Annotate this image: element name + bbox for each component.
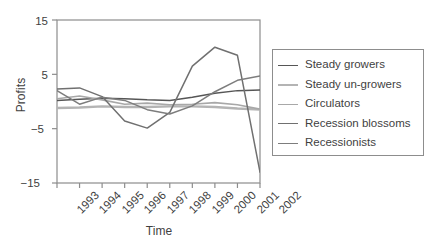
legend-item[interactable]: Steady growers <box>278 55 385 75</box>
legend-swatch-line-icon <box>278 123 298 124</box>
legend-item-label: Steady growers <box>305 59 385 71</box>
series-lines <box>57 47 260 172</box>
ytick-label-neg15: −15 <box>10 177 40 189</box>
series-line <box>57 47 260 172</box>
legend-swatch-line-icon <box>278 143 298 144</box>
legend-item-label: Recession blossoms <box>305 118 410 130</box>
legend-item[interactable]: Circulators <box>278 94 360 114</box>
legend-swatch-line-icon <box>278 65 298 66</box>
legend-item[interactable]: Recessionists <box>278 133 376 153</box>
chart-legend: Steady growersSteady un-growersCirculato… <box>272 49 424 156</box>
legend-item[interactable]: Recession blossoms <box>278 114 410 134</box>
legend-swatch-line-icon <box>278 104 298 105</box>
series-line <box>57 106 260 109</box>
legend-item-label: Circulators <box>305 98 360 110</box>
legend-item-label: Recessionists <box>305 137 376 149</box>
x-axis-title: Time <box>129 224 189 238</box>
ytick-label-15: 15 <box>18 15 48 27</box>
y-axis-title: Profits <box>14 65 28 125</box>
chart-figure: 15 5 −5 −15 1993 1994 1995 1996 1997 199… <box>0 0 433 245</box>
legend-item[interactable]: Steady un-growers <box>278 75 402 95</box>
legend-item-label: Steady un-growers <box>305 79 402 91</box>
legend-swatch-line-icon <box>278 84 298 86</box>
